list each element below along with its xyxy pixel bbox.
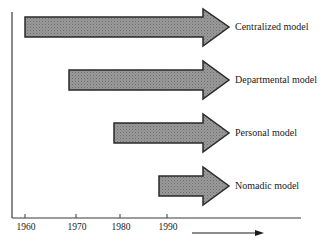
departmental-model-label: Departmental model <box>235 74 317 86</box>
nomadic-model-label: Nomadic model <box>235 180 299 192</box>
personal-model-arrow-icon <box>114 114 229 152</box>
tick-label-1970: 1970 <box>68 222 87 233</box>
tick-label-1990: 1990 <box>159 222 178 233</box>
tick-label-1960: 1960 <box>17 222 36 233</box>
timeline-diagram <box>0 0 325 244</box>
centralized-model-arrow-icon <box>25 9 229 46</box>
departmental-model-arrow-icon <box>69 61 229 99</box>
time-arrowhead-icon <box>255 230 264 236</box>
nomadic-model-arrow-icon <box>159 167 229 205</box>
personal-model-label: Personal model <box>235 127 297 139</box>
tick-label-1980: 1980 <box>112 222 131 233</box>
centralized-model-label: Centralized model <box>235 21 309 33</box>
